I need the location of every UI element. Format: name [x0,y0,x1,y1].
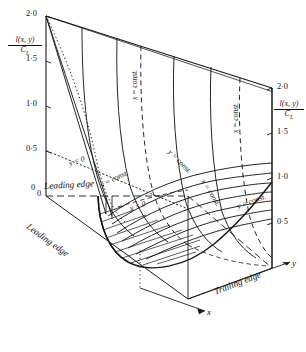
origin-zero-label: 0 [31,183,35,192]
x-axis-letter: x [207,308,211,317]
right-axis-label: l(x, y) C̄L [274,100,304,120]
lobe-hatching [100,206,200,265]
right-axis-denominator: C̄L [274,110,304,120]
surface-top-ridge [46,16,272,92]
left-axis-label: l(x, y) C̄L [8,36,42,56]
apex-dotted-curve [46,16,126,223]
right-tick-1-0: 1·0 [277,172,288,181]
left-tick-1-5: 1·5 [26,54,37,63]
left-tick-1-0: 1·0 [26,99,37,108]
left-tick-2-0: 2·0 [26,9,37,18]
x-const-curves [82,27,272,258]
right-vertical-axis [267,88,272,268]
x-const-vertical-right-label: x = const. [232,103,240,133]
left-tick-0-5: 0·5 [26,144,37,153]
left-axis-denominator: C̄L [8,46,42,56]
left-vertical-axis [46,16,51,196]
y-axis-letter: y [292,259,296,268]
x-axis-line [140,288,205,314]
lift-distribution-3d-figure [0,0,306,352]
right-tick-1-5: 1·5 [277,127,288,136]
x-const-vertical-label: x = const. [131,70,139,100]
left-tick-0: 0 [37,189,41,198]
right-tick-2-0: 2·0 [277,82,288,91]
right-tick-0-5: 0·5 [277,217,288,226]
